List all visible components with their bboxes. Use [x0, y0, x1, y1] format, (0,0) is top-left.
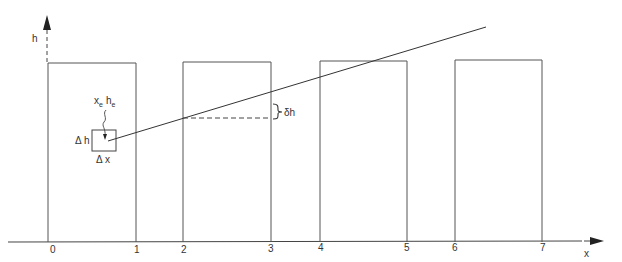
tick-5: 5 — [404, 242, 410, 253]
x-axis-label: x — [584, 248, 589, 259]
h-axis-arrow-icon — [43, 15, 51, 30]
tick-2: 2 — [181, 244, 187, 255]
tick-4: 4 — [318, 242, 324, 253]
delta-h-label: Δ h — [75, 135, 89, 146]
block-0-1 — [48, 63, 136, 242]
x-axis-arrow-icon — [590, 237, 604, 245]
xe-label: xehe — [94, 95, 115, 108]
block-6-7 — [455, 60, 542, 242]
tick-0: 0 — [50, 244, 56, 255]
tick-3: 3 — [268, 243, 274, 254]
pointer-squiggle — [103, 110, 106, 136]
delta-x-label: Δ x — [96, 154, 110, 165]
block-2-3 — [183, 62, 271, 242]
x-tick-labels: 0 1 2 3 4 5 6 7 — [50, 242, 546, 255]
h-axis — [43, 15, 51, 62]
ray-line — [108, 27, 486, 141]
tick-7: 7 — [540, 242, 546, 253]
brace-icon — [273, 104, 282, 119]
x-axis — [8, 237, 604, 245]
h-axis-label: h — [32, 33, 38, 44]
block-4-5 — [320, 61, 407, 242]
tick-1: 1 — [134, 244, 140, 255]
tick-6: 6 — [452, 242, 458, 253]
delta-h-offset-label: δh — [284, 107, 295, 118]
blocks — [48, 60, 542, 242]
diagram-canvas: h x xehe Δ h Δ x δh 0 1 2 3 4 5 6 7 — [0, 0, 622, 262]
element-cell-box — [92, 130, 116, 151]
pointer-arrow-icon — [103, 134, 107, 140]
